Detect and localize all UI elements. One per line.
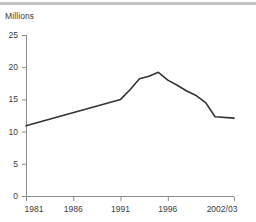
x-axis-tick-label: 1981 xyxy=(25,204,44,214)
x-axis-tick-label: 1991 xyxy=(111,204,130,214)
y-axis-tick-label: 10 xyxy=(2,127,18,137)
x-axis-tick-label: 1996 xyxy=(158,204,177,214)
data-series-line xyxy=(26,72,234,125)
y-axis-tick-label: 5 xyxy=(2,159,18,169)
y-axis-ticks xyxy=(22,36,26,197)
y-axis-tick-label: 15 xyxy=(2,94,18,104)
axis-lines xyxy=(26,35,234,197)
plot-area xyxy=(0,0,256,222)
y-axis-tick-label: 20 xyxy=(2,62,18,72)
x-axis-tick-label: 1986 xyxy=(64,204,83,214)
chart-figure: Millions 0510152025 19811986199119962002… xyxy=(0,0,256,222)
x-axis-tick-label: 2002/03 xyxy=(207,204,238,214)
y-axis-tick-label: 25 xyxy=(2,30,18,40)
x-axis-ticks xyxy=(27,197,235,201)
y-axis-tick-label: 0 xyxy=(2,191,18,201)
